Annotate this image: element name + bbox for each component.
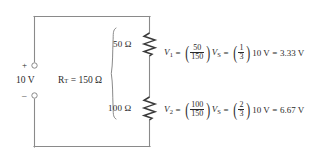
v2-fraction-2-group: ( 2 3 ): [232, 101, 252, 119]
v1-symbol: V: [164, 47, 170, 57]
v1-fraction-2-group: ( 1 3 ): [232, 44, 252, 62]
total-resistance-label: RT = 150 Ω: [58, 76, 102, 86]
v1-fraction-1-group: ( 50 150 ): [184, 44, 212, 62]
v2-fraction-1-numerator: 100: [190, 101, 204, 109]
v2-result: 6.67 V: [280, 105, 304, 115]
v1-equals-1: =: [175, 48, 180, 58]
v2-fraction-2-denominator: 3: [238, 109, 244, 118]
v2-vs-subscript: S: [217, 108, 221, 115]
v1-fraction-2-denominator: 3: [238, 52, 244, 61]
v1-fraction-1: 50 150: [190, 44, 204, 62]
v2-fraction-2-numerator: 2: [238, 101, 244, 109]
v2-equals-1: =: [175, 105, 180, 115]
resistor-label-r1: 50 Ω: [113, 40, 132, 49]
v1-fraction-1-denominator: 150: [190, 52, 204, 61]
v1-fraction-1-numerator: 50: [192, 44, 202, 52]
terminal-negative-circle: [32, 93, 37, 98]
v1-equals-2: =: [223, 48, 228, 58]
source-plus-sign: +: [22, 61, 27, 70]
v1-fraction-2: 1 3: [238, 44, 244, 62]
v2-source-term: 10 V: [252, 105, 270, 115]
equation-v2: V2 = ( 100 150 ) VS = ( 2 3 ) 10 V = 6.6…: [164, 101, 304, 119]
v1-result: 3.33 V: [280, 48, 304, 58]
v1-subscript: 1: [170, 51, 173, 58]
resistor-label-r2: 100 Ω: [108, 104, 131, 113]
circuit-schematic-svg: [0, 0, 321, 157]
circuit-diagram-canvas: + – 10 V RT = 150 Ω 50 Ω 100 Ω V1 = ( 50…: [0, 0, 321, 157]
v1-fraction-2-numerator: 1: [238, 44, 244, 52]
v2-equals-3: =: [272, 105, 277, 115]
v1-vs-subscript: S: [217, 51, 221, 58]
resistor-symbol-r2: [144, 97, 155, 120]
resistor-symbol-r1: [144, 33, 155, 56]
v2-symbol: V: [164, 104, 170, 114]
source-minus-sign: –: [22, 91, 27, 100]
v1-source-term: 10 V: [252, 48, 270, 58]
total-resistance-equals: =: [71, 75, 76, 85]
source-voltage-label: 10 V: [16, 76, 35, 86]
v2-fraction-2: 2 3: [238, 101, 244, 119]
v2-fraction-1-denominator: 150: [190, 109, 204, 118]
v2-fraction-1-group: ( 100 150 ): [184, 101, 212, 119]
v2-equals-2: =: [223, 105, 228, 115]
v2-vs-symbol: V: [212, 104, 218, 114]
v1-vs-symbol: V: [212, 47, 218, 57]
v1-equals-3: =: [272, 48, 277, 58]
v2-fraction-1: 100 150: [190, 101, 204, 119]
total-resistance-subscript: T: [64, 77, 68, 84]
terminal-positive-circle: [32, 63, 37, 68]
equation-v1: V1 = ( 50 150 ) VS = ( 1 3 ) 10 V = 3.33…: [164, 44, 304, 62]
v2-subscript: 2: [170, 108, 173, 115]
total-resistance-value: 150 Ω: [78, 75, 102, 85]
